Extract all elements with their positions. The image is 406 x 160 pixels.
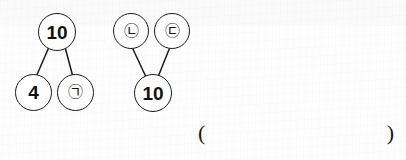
left-part-2-node: ㉠ <box>57 74 94 111</box>
right-part-1-label: ㉡ <box>124 24 139 39</box>
left-connector-to-part-1 <box>36 47 49 77</box>
worksheet-figure: 10 4 ㉠ ㉡ ㉢ 10 ( ) <box>0 0 406 160</box>
right-part-2-node: ㉢ <box>154 13 190 49</box>
right-part-1-node: ㉡ <box>113 13 149 49</box>
left-part-1-node: 4 <box>15 74 52 111</box>
right-part-2-label: ㉢ <box>165 24 180 39</box>
right-whole-label: 10 <box>142 84 163 103</box>
right-whole-node: 10 <box>134 74 172 112</box>
answer-close-paren: ) <box>387 120 394 146</box>
right-connector-from-part-1 <box>132 47 146 77</box>
left-whole-label: 10 <box>46 23 67 42</box>
left-whole-node: 10 <box>38 13 76 51</box>
answer-blank[interactable]: ( ) <box>198 120 394 146</box>
right-connector-from-part-2 <box>158 47 170 77</box>
left-part-1-label: 4 <box>28 83 39 102</box>
left-part-2-label: ㉠ <box>68 85 83 100</box>
left-connector-to-part-2 <box>65 47 73 77</box>
answer-open-paren: ( <box>198 120 205 146</box>
